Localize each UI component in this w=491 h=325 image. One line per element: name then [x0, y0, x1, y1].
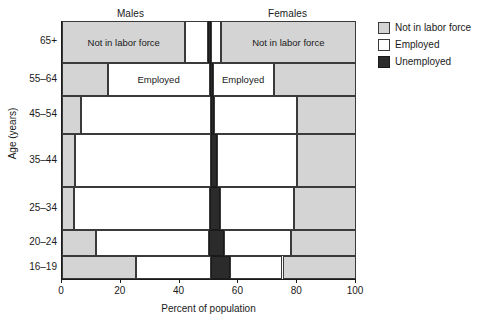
y-axis-title: Age (years) [7, 89, 18, 179]
bar-segment-nilf [274, 63, 356, 96]
y-axis-tick-label: 55–64 [1, 73, 57, 84]
bar-segment-unemp [211, 256, 229, 279]
bar-segment-label: Not in labor force [252, 37, 324, 48]
x-axis-tick [61, 279, 62, 283]
bar-segment-nilf [297, 134, 356, 187]
x-axis-line [61, 279, 356, 280]
legend-label: Not in labor force [395, 22, 471, 33]
x-axis-tick-label: 20 [100, 285, 140, 296]
bar-segment-emp [224, 230, 292, 256]
bar-segment-nilf: Not in labor force [221, 21, 356, 63]
bar-segment-nilf [291, 230, 356, 256]
bar-segment-label: Employed [137, 74, 179, 85]
bar-segment-emp [74, 187, 210, 230]
x-axis-tick [120, 279, 121, 283]
x-axis-tick-label: 0 [41, 285, 81, 296]
bar-segment-nilf [62, 187, 74, 230]
group-header-males: Males [68, 8, 193, 19]
x-axis-title: Percent of population [61, 303, 356, 314]
legend-item-unemp[interactable]: Unemployed [378, 55, 488, 68]
bar-row [62, 134, 356, 187]
labor-force-mosaic-chart: Males Females Not in labor forceNot in l… [0, 0, 491, 325]
bar-row [62, 187, 356, 230]
bar-segment-nilf [62, 230, 96, 256]
bar-row [62, 256, 356, 279]
x-axis-tick-label: 100 [335, 285, 375, 296]
legend-label: Employed [395, 39, 439, 50]
x-axis-tick-label: 80 [276, 285, 316, 296]
bar-segment-label: Not in labor force [88, 37, 160, 48]
legend-item-nilf[interactable]: Not in labor force [378, 21, 488, 34]
chart-legend: Not in labor forceEmployedUnemployed [378, 21, 488, 72]
bar-row: EmployedEmployed [62, 63, 356, 96]
bar-segment-label: Employed [222, 74, 264, 85]
bar-segment-nilf [297, 96, 356, 134]
bar-segment-emp: Employed [108, 63, 210, 96]
bar-segment-emp: Employed [213, 63, 274, 96]
bar-segment-nilf [283, 256, 357, 279]
x-axis-tick [296, 279, 297, 283]
legend-item-emp[interactable]: Employed [378, 38, 488, 51]
legend-label: Unemployed [395, 56, 451, 67]
x-axis-tick [179, 279, 180, 283]
y-axis-tick-label: 20–24 [1, 236, 57, 247]
bar-segment-nilf [294, 187, 356, 230]
bar-segment-nilf [62, 96, 81, 134]
legend-swatch-nilf [378, 22, 390, 34]
bar-segment-emp [211, 21, 221, 63]
bar-segment-emp [81, 96, 211, 134]
x-axis-tick [237, 279, 238, 283]
bar-segment-nilf [62, 63, 108, 96]
bar-segment-emp [136, 256, 212, 279]
bar-row [62, 230, 356, 256]
bar-row: Not in labor forceNot in labor force [62, 21, 356, 63]
x-axis-tick-label: 60 [217, 285, 257, 296]
bar-segment-nilf: Not in labor force [62, 21, 185, 63]
y-axis-tick-label: 25–34 [1, 202, 57, 213]
bar-segment-unemp [209, 230, 224, 256]
bar-segment-emp [96, 230, 209, 256]
bar-segment-nilf [62, 134, 75, 187]
legend-swatch-emp [378, 39, 390, 51]
bar-segment-emp [217, 134, 298, 187]
bar-segment-unemp [210, 187, 219, 230]
plot-area: Not in labor forceNot in labor forceEmpl… [61, 21, 356, 279]
bar-segment-emp [214, 96, 297, 134]
x-axis-tick [355, 279, 356, 283]
y-axis-tick-label: 16–19 [1, 261, 57, 272]
bar-segment-emp [220, 187, 295, 230]
x-axis-tick-label: 40 [159, 285, 199, 296]
legend-swatch-unemp [378, 56, 390, 68]
bar-segment-nilf [62, 256, 136, 279]
bar-segment-emp [185, 21, 207, 63]
bar-row [62, 96, 356, 134]
y-axis-tick-label: 65+ [1, 35, 57, 46]
bar-segment-emp [230, 256, 283, 279]
bar-segment-emp [75, 134, 211, 187]
group-header-females: Females [225, 8, 350, 19]
